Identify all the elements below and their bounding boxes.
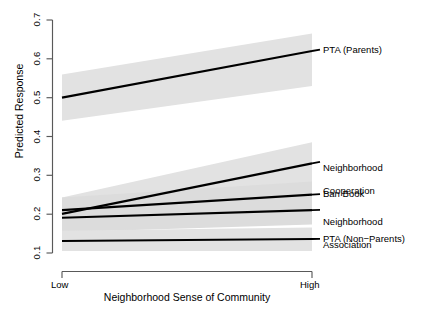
- y-tick-label-0.3: 0.3: [31, 162, 42, 188]
- x-axis: [62, 272, 312, 279]
- leader-ban-book: [312, 194, 320, 195]
- band-pta-parents: [62, 34, 312, 121]
- x-tick-label-high: High: [300, 279, 320, 290]
- y-tick-label-0.6: 0.6: [31, 46, 42, 72]
- y-tick-label-0.5: 0.5: [31, 85, 42, 111]
- series-label-neighborhood-association-line1: Neighborhood: [323, 216, 383, 227]
- leader-pta-parents: [312, 50, 320, 51]
- y-tick-label-0.1: 0.1: [31, 240, 42, 266]
- series-label-neighborhood-cooperation-line1: Neighborhood: [323, 162, 383, 173]
- x-tick-label-low: Low: [51, 279, 68, 290]
- series-label-pta-non-parents: PTA (Non−Parents): [323, 233, 405, 245]
- label-leader-lines: [312, 50, 320, 239]
- y-tick-label-0.2: 0.2: [31, 201, 42, 227]
- series-label-pta-parents: PTA (Parents): [323, 44, 382, 56]
- leader-neighborhood-cooperation: [312, 162, 320, 164]
- y-tick-label-0.4: 0.4: [31, 124, 42, 150]
- y-axis-title: Predicted Response: [13, 56, 25, 166]
- y-tick-label-0.7: 0.7: [31, 7, 42, 33]
- confidence-bands: [62, 34, 312, 252]
- chart-figure: 0.7 0.6 0.5 0.4 0.3 0.2 0.1 Predicted Re…: [0, 0, 425, 314]
- y-axis: [47, 20, 53, 253]
- series-label-ban-book: Ban Book: [323, 188, 364, 200]
- x-axis-title: Neighborhood Sense of Community: [62, 291, 312, 303]
